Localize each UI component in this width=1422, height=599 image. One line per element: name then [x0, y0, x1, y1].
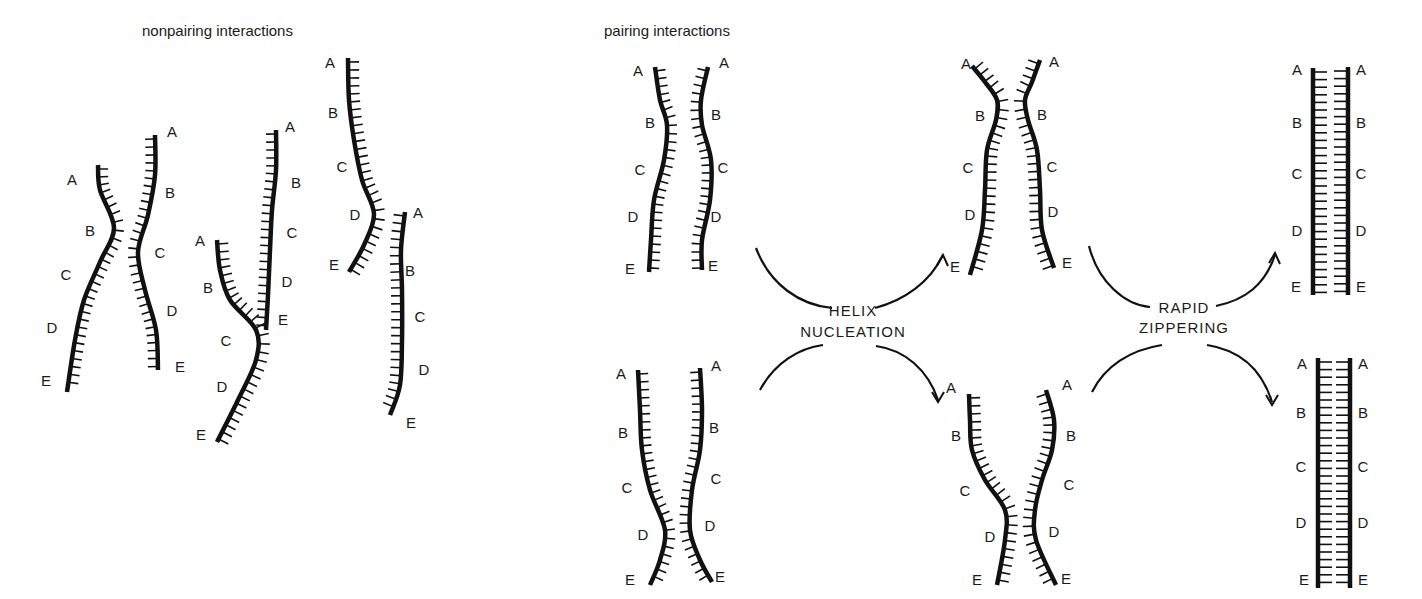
base-tick	[371, 199, 381, 203]
strand-backbone	[638, 370, 665, 585]
base-tick	[701, 188, 711, 189]
segment-label: D	[1296, 514, 1307, 531]
segment-label: E	[329, 256, 339, 273]
base-tick	[368, 191, 378, 196]
dna-strand: ABCDE	[616, 365, 675, 588]
base-tick	[691, 388, 701, 389]
base-tick	[1024, 509, 1035, 510]
base-tick	[985, 75, 994, 82]
base-tick	[244, 389, 254, 394]
segment-label: A	[1062, 376, 1072, 393]
base-tick	[700, 196, 710, 197]
segment-label: A	[1049, 53, 1059, 70]
base-tick	[987, 477, 996, 483]
strand-backbone	[390, 212, 405, 415]
arrow-icon	[876, 346, 938, 400]
base-tick	[250, 315, 258, 322]
segment-label: B	[165, 184, 175, 201]
arrow-tail	[1089, 246, 1150, 307]
base-tick	[263, 197, 273, 198]
dna-strand: ABCDE	[1334, 61, 1367, 295]
base-tick	[390, 375, 401, 376]
segment-label: E	[1356, 278, 1366, 295]
base-tick	[1036, 564, 1046, 569]
arrow-tail	[756, 248, 832, 308]
segment-label: B	[203, 279, 213, 296]
segment-label: B	[1356, 114, 1366, 131]
base-tick	[233, 410, 243, 415]
arrow-icon	[1207, 345, 1272, 402]
helix-nucleation-line2: NUCLEATION	[800, 323, 906, 340]
segment-label: A	[195, 232, 205, 249]
segment-label: B	[975, 107, 985, 124]
base-tick	[691, 443, 701, 444]
base-tick	[229, 293, 239, 298]
segment-label: E	[175, 358, 185, 375]
base-tick	[649, 268, 659, 269]
base-tick	[990, 81, 999, 88]
base-tick	[986, 156, 997, 157]
segment-label: E	[1291, 278, 1301, 295]
rapid-zippering-line1: RAPID	[1159, 299, 1210, 316]
base-tick	[667, 142, 677, 143]
base-tick	[690, 372, 700, 373]
base-tick	[1028, 171, 1039, 172]
base-tick	[105, 252, 114, 257]
base-tick	[234, 298, 242, 305]
base-tick	[262, 213, 272, 214]
base-tick	[1032, 557, 1042, 562]
base-tick	[128, 257, 138, 258]
segment-label: D	[1358, 514, 1369, 531]
base-tick	[1029, 187, 1040, 188]
base-tick	[391, 239, 402, 240]
base-tick	[390, 247, 401, 248]
base-tick	[239, 303, 247, 311]
segment-label: D	[1049, 523, 1060, 540]
base-tick	[651, 236, 661, 237]
base-tick	[217, 243, 228, 244]
base-tick	[240, 396, 250, 401]
base-tick	[226, 425, 236, 430]
dna-strand: ABCDE	[41, 165, 124, 392]
helix-nucleation-line1: HELIX	[829, 302, 877, 319]
base-tick	[257, 309, 267, 310]
arrow-tail	[1092, 345, 1162, 392]
dna-strand: ABCDE	[1023, 376, 1076, 587]
segment-label: E	[1299, 571, 1309, 588]
base-tick	[254, 367, 264, 371]
base-tick	[650, 252, 660, 253]
base-tick	[975, 62, 983, 69]
base-tick	[351, 269, 360, 275]
base-tick	[251, 374, 261, 379]
strand-backbone	[969, 394, 1007, 585]
base-tick	[266, 173, 276, 174]
segment-label: B	[711, 106, 721, 123]
dna-strand: ABCDE	[325, 54, 385, 275]
segment-label: E	[1358, 571, 1368, 588]
base-tick	[1030, 219, 1041, 220]
segment-label: D	[167, 302, 178, 319]
segment-label: C	[635, 161, 646, 178]
dna-strand: ABCDE	[1336, 355, 1369, 588]
base-tick	[665, 538, 675, 539]
strand-backbone	[970, 66, 998, 275]
base-tick	[1028, 163, 1039, 164]
base-tick	[265, 181, 275, 182]
base-tick	[979, 464, 989, 469]
segment-label: D	[282, 273, 293, 290]
base-tick	[691, 101, 701, 102]
base-tick	[983, 220, 994, 221]
segment-label: B	[405, 262, 415, 279]
base-tick	[219, 439, 229, 444]
segment-label: D	[1292, 222, 1303, 239]
base-tick	[145, 170, 155, 171]
base-tick	[98, 176, 108, 177]
segment-label: E	[1062, 254, 1072, 271]
segment-label: B	[645, 114, 655, 131]
segment-label: C	[711, 470, 722, 487]
base-tick	[983, 470, 993, 475]
base-tick	[994, 89, 1003, 95]
base-tick	[1023, 517, 1034, 518]
base-tick	[366, 241, 376, 246]
base-tick	[147, 343, 157, 344]
